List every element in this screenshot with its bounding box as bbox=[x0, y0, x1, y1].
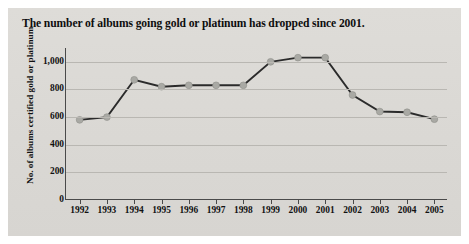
x-axis-tick bbox=[298, 199, 299, 204]
gridline bbox=[66, 172, 447, 173]
x-axis-tick bbox=[353, 199, 354, 204]
x-axis-tick bbox=[80, 199, 81, 204]
y-axis-tick-label: 200 bbox=[28, 167, 64, 176]
data-point-marker bbox=[295, 54, 302, 61]
x-axis-tick bbox=[243, 199, 244, 204]
series-line bbox=[66, 48, 448, 200]
x-axis-tick bbox=[271, 199, 272, 204]
y-axis-tick-label: 600 bbox=[28, 112, 64, 121]
y-axis-tick-label: 1,000 bbox=[28, 57, 64, 66]
x-axis-tick bbox=[216, 199, 217, 204]
x-axis-tick bbox=[134, 199, 135, 204]
y-axis-tick-label: 400 bbox=[28, 140, 64, 149]
plot-wrapper: No. of albums certified gold or platinum… bbox=[8, 8, 461, 236]
data-point-marker bbox=[349, 92, 356, 99]
y-axis-tick-labels: 02004006008001,000 bbox=[24, 8, 64, 236]
figure-panel: The number of albums going gold or plati… bbox=[8, 8, 461, 236]
data-point-marker bbox=[131, 76, 138, 83]
x-axis-tick bbox=[325, 199, 326, 204]
x-axis-tick bbox=[162, 199, 163, 204]
x-axis-tick bbox=[407, 199, 408, 204]
gridline bbox=[66, 62, 447, 63]
x-axis-tick bbox=[107, 199, 108, 204]
data-point-marker bbox=[376, 108, 383, 115]
data-point-marker bbox=[240, 82, 247, 89]
x-axis-tick bbox=[434, 199, 435, 204]
gridline bbox=[66, 117, 447, 118]
x-axis-tick bbox=[189, 199, 190, 204]
data-point-marker bbox=[213, 82, 220, 89]
data-point-marker bbox=[404, 109, 411, 116]
y-axis-tick-label: 800 bbox=[28, 84, 64, 93]
x-axis-tick-label: 2005 bbox=[414, 205, 454, 215]
gridline bbox=[66, 145, 447, 146]
x-axis-tick bbox=[380, 199, 381, 204]
y-axis-tick-label: 0 bbox=[28, 195, 64, 204]
plot-area: 1992199319941995199619971998199920002001… bbox=[65, 48, 447, 200]
gridline bbox=[66, 89, 447, 90]
data-point-marker bbox=[185, 82, 192, 89]
data-point-marker bbox=[322, 54, 329, 61]
